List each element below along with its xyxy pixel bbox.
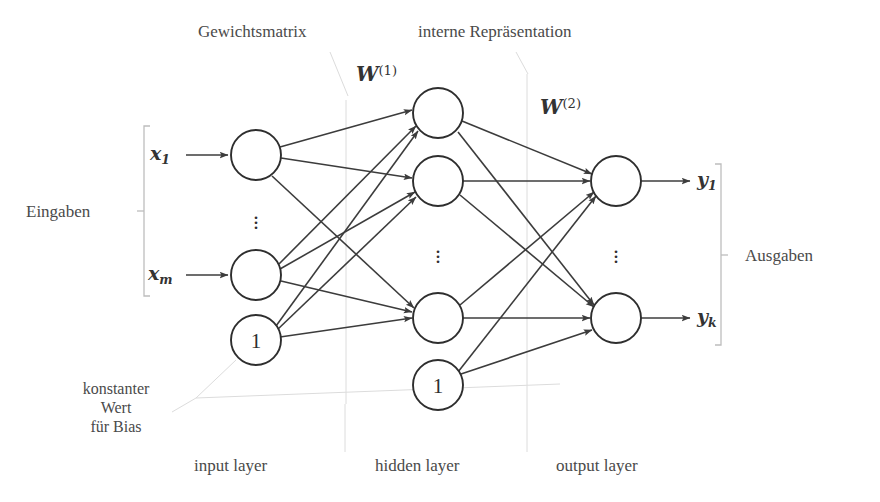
hidden-layer-ellipsis: ...	[435, 243, 441, 258]
output-layer-ellipsis: ...	[613, 243, 619, 258]
node-yk	[591, 293, 641, 343]
label-output-layer: output layer	[556, 456, 638, 476]
input-arrows	[186, 155, 228, 275]
y1-base: y	[697, 168, 708, 190]
w2-base: W	[540, 95, 562, 119]
output-arrows	[641, 181, 690, 318]
symbol-xm: xm	[148, 262, 173, 287]
node-h3	[413, 293, 463, 343]
annotation-bias-note: konstanter Wert für Bias	[58, 380, 174, 437]
bias-note-line-1: konstanter	[58, 380, 174, 399]
xm-base: x	[148, 262, 159, 284]
x1-subscript: 1	[161, 152, 170, 167]
y1-subscript: 1	[708, 178, 717, 193]
label-ausgaben: Ausgaben	[745, 246, 813, 266]
annotation-weight-matrix: Gewichtsmatrix	[198, 22, 307, 42]
weight-edges-layer1	[272, 110, 418, 337]
symbol-yk: yk	[697, 305, 717, 330]
yk-subscript: k	[708, 315, 717, 330]
node-h1	[413, 88, 463, 138]
hidden-bias-value: 1	[433, 374, 444, 399]
node-h2	[413, 156, 463, 206]
w1-base: W	[356, 62, 378, 86]
leader-lines	[172, 52, 560, 452]
bias-note-line-3: für Bias	[58, 418, 174, 437]
neural-network-diagram: 1 1 ... ... ... Gewichtsmatrix interne R…	[0, 0, 880, 502]
symbol-x1: x1	[150, 142, 170, 167]
symbol-w2: W(2)	[540, 95, 581, 119]
label-hidden-layer: hidden layer	[375, 456, 460, 476]
input-bias-value: 1	[251, 329, 262, 354]
w1-superscript: (1)	[378, 63, 397, 78]
xm-subscript: m	[159, 272, 172, 287]
bias-note-line-2: Wert	[58, 399, 174, 418]
annotation-internal-representation: interne Repräsentation	[418, 22, 571, 42]
node-x1	[231, 130, 281, 180]
symbol-y1: y1	[697, 168, 717, 193]
w2-superscript: (2)	[562, 96, 581, 111]
node-xm	[231, 250, 281, 300]
node-y1	[591, 156, 641, 206]
x1-base: x	[150, 142, 161, 164]
yk-base: y	[697, 305, 708, 327]
label-input-layer: input layer	[194, 456, 267, 476]
symbol-w1: W(1)	[356, 62, 397, 86]
label-eingaben: Eingaben	[26, 202, 90, 222]
input-layer-ellipsis: ...	[253, 209, 259, 224]
